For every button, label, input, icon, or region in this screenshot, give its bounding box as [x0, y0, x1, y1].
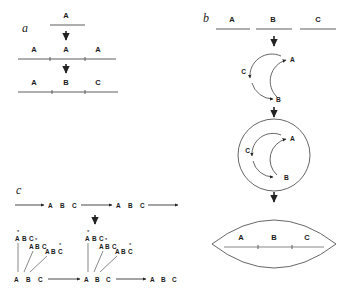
panel-b-letter: b [203, 11, 209, 25]
unit-label: C [29, 235, 34, 242]
unit-label: B [92, 235, 97, 242]
unit-label: A [29, 243, 34, 250]
unit-label: B [161, 276, 166, 283]
circle-label-c: C [245, 147, 250, 154]
panel-b: b A B C A B C [203, 11, 336, 268]
unit-label: A [48, 202, 53, 209]
circle-label-b: B [284, 174, 289, 181]
panel-b-top-segments: A B C [216, 15, 336, 29]
mutated-unit-label: C [128, 248, 133, 255]
segment-label: A [238, 233, 244, 242]
segment-label: B [270, 15, 276, 24]
panel-c-bottom-row: A B C A B C A B C [14, 276, 177, 283]
unit-label: B [22, 235, 27, 242]
unit-label: C [106, 276, 111, 283]
panel-c-cluster-2: * A B C * A B C * A B C [85, 229, 133, 272]
unit-label: B [26, 276, 31, 283]
panel-a-row-2: A A A [18, 45, 116, 61]
unit-label: A [99, 243, 104, 250]
mutated-unit-label: A [15, 235, 20, 242]
unit-label: A [115, 248, 120, 255]
segment-label: A [63, 45, 69, 54]
inner-arc-to-a [270, 139, 286, 175]
panel-a-row-1: A [50, 11, 85, 25]
unit-label: A [116, 202, 121, 209]
panel-a: a A A A A A B C [18, 11, 118, 94]
segment-label: B [271, 233, 277, 242]
lens-outline [212, 220, 336, 268]
segment-label: C [304, 233, 310, 242]
unit-label: B [95, 276, 100, 283]
unit-label: C [140, 202, 145, 209]
circle-label-a: A [290, 56, 295, 63]
unit-label: B [128, 202, 133, 209]
mutated-unit-label: B [35, 243, 40, 250]
panel-c: c A B C A B C * A B C * A B [14, 183, 178, 283]
panel-a-row-3: A B C [18, 78, 118, 94]
inner-arc-to-c [252, 133, 281, 156]
segment-label: A [31, 45, 37, 54]
unit-label: B [60, 202, 65, 209]
unit-label: B [51, 248, 56, 255]
segment-label: A [63, 11, 69, 20]
circle-label-a: A [290, 135, 295, 142]
segment-label: B [63, 78, 69, 87]
panel-b-circle-single: A B C [241, 54, 295, 103]
unit-label: A [84, 276, 89, 283]
unit-label: A [45, 248, 50, 255]
segment-label: C [95, 78, 101, 87]
segment-label: A [95, 45, 101, 54]
outer-circle [238, 119, 310, 191]
panel-c-letter: c [16, 183, 22, 197]
leader-line [24, 251, 33, 272]
arc-to-a [270, 60, 286, 97]
unit-label: B [121, 248, 126, 255]
segment-label: C [315, 15, 321, 24]
segment-label: A [31, 78, 37, 87]
unit-label: C [72, 202, 77, 209]
arc-to-b [252, 83, 273, 99]
panel-b-circle-double: A B C [238, 119, 310, 191]
leader-line [30, 256, 47, 272]
mutated-unit-label: C [58, 248, 63, 255]
leader-line [100, 256, 117, 272]
mutated-unit-label: A [85, 235, 90, 242]
unit-label: C [99, 235, 104, 242]
segment-label: A [229, 15, 235, 24]
circle-label-c: C [241, 68, 246, 75]
figure-canvas: a A A A A A B C [0, 0, 343, 293]
leader-line [94, 251, 103, 272]
panel-c-cluster-1: * A B C * A B C * A B C [15, 229, 63, 272]
unit-label: A [150, 276, 155, 283]
unit-label: C [172, 276, 177, 283]
panel-a-letter: a [22, 21, 28, 35]
circle-label-b: B [276, 96, 281, 103]
panel-b-lens: A B C [212, 220, 336, 268]
unit-label: A [14, 276, 19, 283]
mutated-unit-label: B [105, 243, 110, 250]
unit-label: C [38, 276, 43, 283]
panel-c-top-row: A B C A B C [15, 202, 178, 209]
